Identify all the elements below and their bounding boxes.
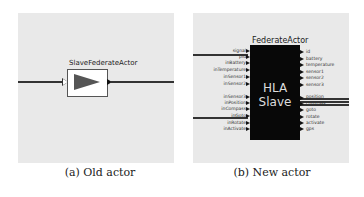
input-port-icon[interactable] <box>246 95 250 99</box>
port-label: inGoto <box>231 113 246 119</box>
output-port-icon[interactable] <box>300 57 304 61</box>
output-port-icon[interactable] <box>300 102 304 106</box>
input-port-icon[interactable] <box>246 82 250 86</box>
port-label: inBattery <box>225 60 246 66</box>
port-label: inActivate <box>223 126 246 132</box>
input-port-icon[interactable] <box>246 49 250 53</box>
new-actor-title: FederateActor <box>252 36 308 45</box>
output-port-icon[interactable] <box>300 127 304 131</box>
input-port-icon[interactable] <box>246 61 250 65</box>
input-wire <box>18 81 66 83</box>
slave-label: Slave <box>250 95 300 109</box>
output-port-icon[interactable] <box>300 96 304 100</box>
output-port-icon[interactable] <box>300 83 304 87</box>
port-label: inCompass <box>221 106 246 112</box>
output-port-icon[interactable] <box>300 115 304 119</box>
hla-slave-actor-box[interactable]: HLA Slave <box>250 45 300 140</box>
input-port-icon[interactable] <box>246 101 250 105</box>
input-port-icon[interactable] <box>246 107 250 111</box>
output-port-icon[interactable] <box>300 108 304 112</box>
hla-label: HLA <box>250 81 300 95</box>
old-actor-title: SlaveFederateActor <box>69 59 137 67</box>
output-wire <box>111 81 174 83</box>
port-label: position <box>306 94 324 100</box>
port-label: gps <box>306 126 314 132</box>
caption-a: (a) Old actor <box>40 166 160 179</box>
port-label: inSensor2 <box>224 81 246 87</box>
input-port-icon[interactable] <box>246 127 250 131</box>
port-label: sensor3 <box>306 82 324 88</box>
output-port-icon[interactable] <box>300 63 304 67</box>
input-port-icon[interactable] <box>246 121 250 125</box>
port-label: temperature <box>306 62 334 68</box>
port-label: sensor2 <box>306 75 324 81</box>
play-triangle-icon <box>74 74 100 90</box>
input-port-icon[interactable] <box>246 55 250 59</box>
output-port-icon[interactable] <box>300 70 304 74</box>
output-port-icon[interactable] <box>300 121 304 125</box>
input-port-icon[interactable] <box>246 114 250 118</box>
port-label: goto <box>306 107 316 113</box>
output-port-icon[interactable] <box>300 50 304 54</box>
port-label: id <box>306 49 310 55</box>
output-port-icon[interactable] <box>300 76 304 80</box>
input-port-icon[interactable] <box>246 75 250 79</box>
old-actor-box[interactable] <box>67 69 108 97</box>
input-port-icon[interactable] <box>246 68 250 72</box>
caption-b: (b) New actor <box>212 166 332 179</box>
port-label: inSensor1 <box>224 74 246 80</box>
port-label: inTemperature <box>213 67 246 73</box>
